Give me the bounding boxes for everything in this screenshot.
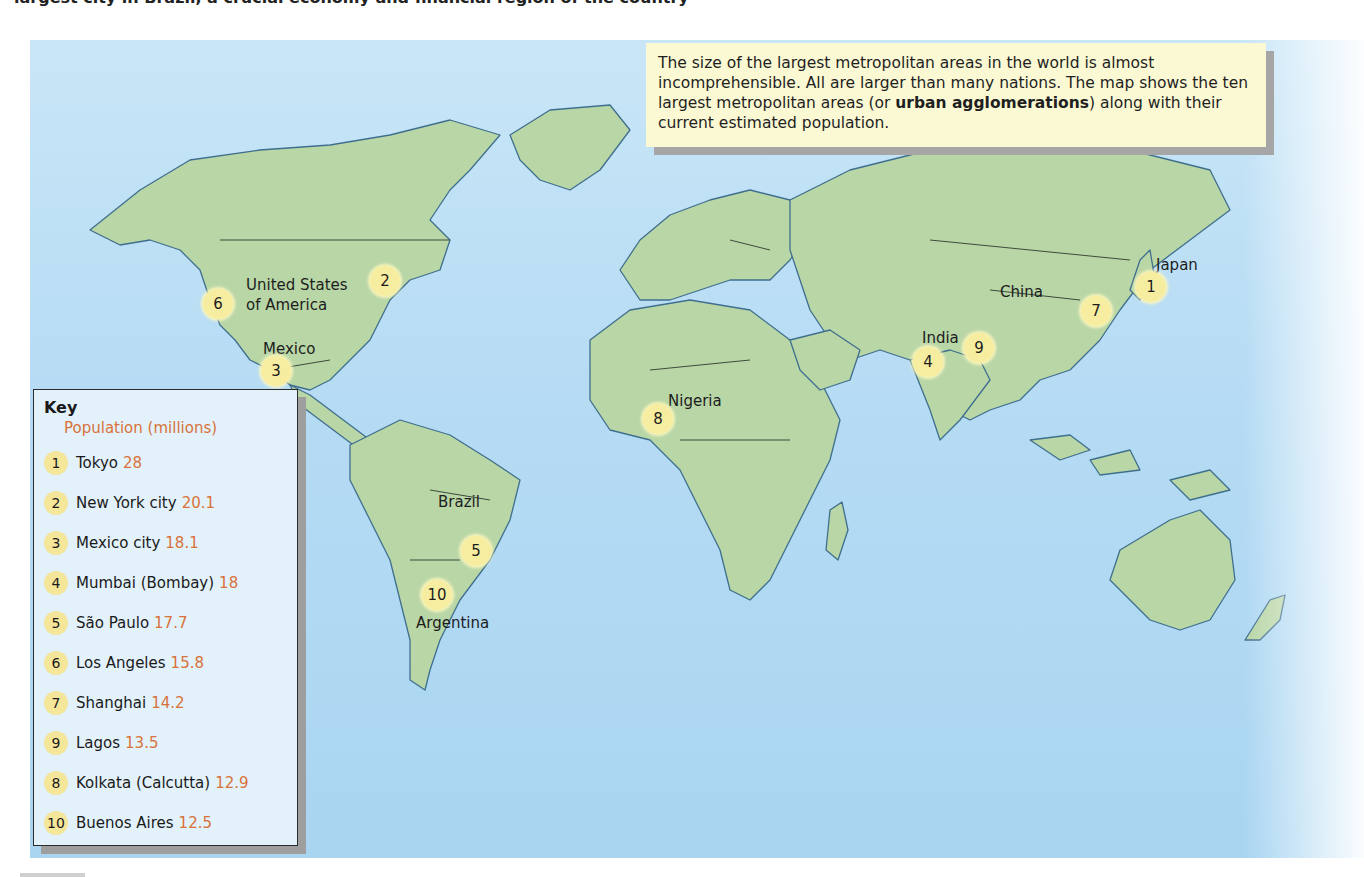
key-city: Mexico city xyxy=(76,534,160,552)
key-entry: 8 Kolkata (Calcutta) 12.9 xyxy=(44,763,287,803)
marker-los-angeles[interactable]: 6 xyxy=(203,289,233,319)
key-entry: 9 Lagos 13.5 xyxy=(44,723,287,763)
key-number-badge: 3 xyxy=(44,531,68,555)
key-entry: 5 São Paulo 17.7 xyxy=(44,603,287,643)
key-entry: 6 Los Angeles 15.8 xyxy=(44,643,287,683)
label-mexico: Mexico xyxy=(263,340,315,358)
marker-lagos[interactable]: 8 xyxy=(643,404,673,434)
marker-mexico-city[interactable]: 3 xyxy=(261,356,291,386)
key-entry: 2 New York city 20.1 xyxy=(44,483,287,523)
key-number-badge: 7 xyxy=(44,691,68,715)
key-city: Buenos Aires xyxy=(76,814,174,832)
description-bold-term: urban agglomerations xyxy=(895,94,1089,112)
label-usa-line1: United States xyxy=(246,276,348,294)
key-entry: 1 Tokyo 28 xyxy=(44,443,287,483)
label-usa-line2: of America xyxy=(246,296,327,314)
footer-rule xyxy=(20,873,85,877)
key-number-badge: 10 xyxy=(44,811,68,835)
key-population: 28 xyxy=(123,454,142,472)
key-population: 14.2 xyxy=(151,694,184,712)
key-number-badge: 9 xyxy=(44,731,68,755)
key-population: 13.5 xyxy=(125,734,158,752)
key-city: New York city xyxy=(76,494,177,512)
key-city: Shanghai xyxy=(76,694,146,712)
key-entry: 10 Buenos Aires 12.5 xyxy=(44,803,287,843)
label-china: China xyxy=(1000,283,1043,301)
page-top-text-clipped: largest city in Brazil, a crucial econom… xyxy=(14,0,689,7)
label-brazil: Brazil xyxy=(438,493,480,511)
map-description-box: The size of the largest metropolitan are… xyxy=(646,43,1266,147)
key-city: Tokyo xyxy=(76,454,118,472)
key-title: Key xyxy=(44,398,287,417)
marker-tokyo[interactable]: 1 xyxy=(1136,272,1166,302)
label-india: India xyxy=(922,329,959,347)
marker-kolkata[interactable]: 9 xyxy=(964,333,994,363)
key-city: Los Angeles xyxy=(76,654,166,672)
key-number-badge: 8 xyxy=(44,771,68,795)
marker-buenos-aires[interactable]: 10 xyxy=(422,580,452,610)
key-population: 12.5 xyxy=(179,814,212,832)
map-key: Key Population (millions) 1 Tokyo 28 2 N… xyxy=(33,389,298,846)
marker-new-york[interactable]: 2 xyxy=(370,266,400,296)
key-number-badge: 5 xyxy=(44,611,68,635)
key-entry: 7 Shanghai 14.2 xyxy=(44,683,287,723)
key-entry: 4 Mumbai (Bombay) 18 xyxy=(44,563,287,603)
marker-shanghai[interactable]: 7 xyxy=(1081,296,1111,326)
key-number-badge: 1 xyxy=(44,451,68,475)
key-population: 18 xyxy=(219,574,238,592)
key-population: 20.1 xyxy=(182,494,215,512)
key-number-badge: 2 xyxy=(44,491,68,515)
key-subtitle: Population (millions) xyxy=(64,419,287,437)
key-population: 12.9 xyxy=(215,774,248,792)
key-population: 18.1 xyxy=(165,534,198,552)
key-population: 15.8 xyxy=(171,654,204,672)
marker-sao-paulo[interactable]: 5 xyxy=(461,536,491,566)
key-city: Lagos xyxy=(76,734,120,752)
label-japan: Japan xyxy=(1156,256,1198,274)
label-argentina: Argentina xyxy=(416,614,489,632)
key-number-badge: 6 xyxy=(44,651,68,675)
key-city: Kolkata (Calcutta) xyxy=(76,774,210,792)
marker-mumbai[interactable]: 4 xyxy=(913,347,943,377)
label-nigeria: Nigeria xyxy=(668,392,722,410)
key-city: Mumbai (Bombay) xyxy=(76,574,214,592)
key-city: São Paulo xyxy=(76,614,149,632)
key-number-badge: 4 xyxy=(44,571,68,595)
key-population: 17.7 xyxy=(154,614,187,632)
key-entry: 3 Mexico city 18.1 xyxy=(44,523,287,563)
